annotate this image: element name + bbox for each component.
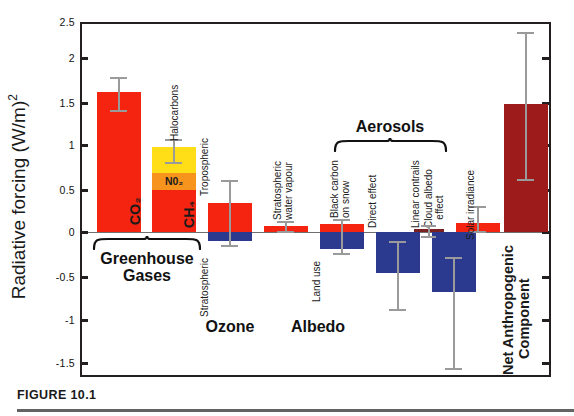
y-tick-mark-right-2: [542, 57, 551, 60]
y-tick-mark--1.5: [80, 362, 88, 365]
bar-label-co2: CO₂: [127, 197, 143, 225]
group-label-ozone: Ozone: [185, 318, 275, 335]
y-tick-mark-0: [80, 231, 88, 234]
errorbar-direct-effect-cap-top: [389, 241, 406, 243]
y-tick-mark-1.5: [80, 102, 88, 105]
errorbar-solar-irradiance: [477, 206, 479, 232]
errorbar-net-anthropogenic-cap-top: [517, 32, 534, 34]
errorbar-cloud-albedo-effect: [453, 257, 455, 369]
y-tick-mark-right--0.5: [542, 276, 551, 279]
y-axis-title: Radiative forcing (W/m)2: [6, 42, 29, 352]
figure-root: 2.5 2 1.5 1 0.5 0 -0.5 -1 -1.5 Radiative…: [0, 0, 574, 416]
errorbar-co2-cap-bottom: [110, 110, 127, 112]
y-tick-label--1: -1: [65, 314, 75, 326]
errorbar-albedo-cap-bottom: [333, 253, 350, 255]
y-tick-mark-1: [80, 144, 88, 147]
y-tick-label-2.5: 2.5: [60, 16, 76, 28]
errorbar-ozone-cap-bottom: [221, 245, 238, 247]
y-tick-mark--1: [80, 319, 88, 322]
y-tick-mark-right--1.5: [542, 362, 551, 365]
y-tick-mark-2: [80, 57, 88, 60]
bar-label-aerosol-direct-effect: Direct effect: [367, 175, 378, 228]
bar-label-land-use: Land use: [311, 261, 322, 302]
errorbar-linear-contrails-cap-bottom: [421, 236, 436, 238]
bar-label-stratospheric-water-vapour: Stratosphericwater vapour: [272, 161, 294, 220]
caption-divider: [17, 409, 574, 412]
y-tick-mark-right--1: [542, 319, 551, 322]
bar-label-tropospheric-ozone: Tropospheric: [199, 138, 210, 196]
errorbar-albedo: [341, 219, 343, 254]
y-tick-mark-0.5: [80, 189, 88, 192]
group-label-greenhouse-gases: GreenhouseGases: [72, 250, 222, 284]
errorbar-ghg-other: [173, 139, 175, 163]
y-tick-label-0.5: 0.5: [60, 184, 76, 196]
figure-caption: FIGURE 10.1: [17, 388, 96, 402]
group-label-albedo: Albedo: [268, 318, 368, 335]
errorbar-ghg-other-cap-bottom: [165, 162, 182, 164]
bar-label-n2o: N0₂: [152, 175, 196, 187]
y-tick-label-2: 2: [69, 52, 75, 64]
bracket-aerosols: [333, 138, 448, 152]
bar-label-linear-contrails: Linear contrails: [410, 160, 421, 228]
errorbar-ozone: [229, 180, 231, 246]
bracket-greenhouse-gases: [92, 236, 202, 250]
errorbar-swv-cap-bottom: [277, 231, 294, 233]
bar-label-net-anthropogenic-component: Net Anthropogenic Component: [500, 245, 532, 375]
errorbar-co2: [118, 77, 120, 112]
errorbar-direct-effect-cap-bottom: [389, 309, 406, 311]
bar-label-cloud-albedo-effect: Cloud albedo effect: [423, 169, 445, 228]
bar-label-ch4: CH₄: [181, 201, 197, 229]
y-axis-title-text: Radiative forcing (W/m): [8, 101, 29, 300]
y-tick-label-1.5: 1.5: [60, 97, 76, 109]
y-tick-label--1.5: -1.5: [56, 357, 75, 369]
group-label-aerosols: Aerosols: [330, 118, 450, 135]
y-tick-label-1: 1: [69, 139, 75, 151]
bar-label-halocarbons: Halocarbons: [169, 85, 180, 141]
y-axis-title-exponent: 2: [6, 94, 20, 101]
errorbar-albedo-cap-top: [333, 219, 350, 221]
errorbar-cloud-albedo-cap-top: [445, 257, 462, 259]
errorbar-net-anthropogenic-cap-bottom: [517, 179, 534, 181]
bar-label-black-carbon-on-snow: Black carbonon snow: [329, 160, 351, 218]
errorbar-co2-cap-top: [110, 77, 127, 79]
errorbar-ozone-cap-top: [221, 180, 238, 182]
y-tick-label-0: 0: [69, 226, 75, 238]
errorbar-direct-effect: [397, 241, 399, 310]
bar-label-solar-irradiance: Solar irradiance: [465, 170, 476, 240]
errorbar-cloud-albedo-cap-bottom: [445, 368, 462, 370]
errorbar-linear-contrails-cap-top: [421, 225, 436, 227]
errorbar-swv-cap-top: [277, 221, 294, 223]
errorbar-net-anthropogenic: [525, 32, 527, 180]
